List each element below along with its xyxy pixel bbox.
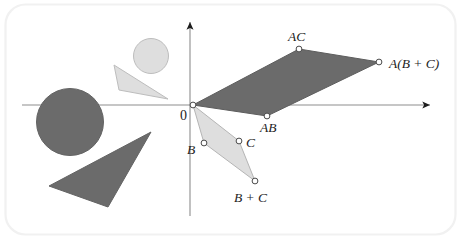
dark-circle [37,89,104,156]
label-b-plus-c: B + C [234,190,268,205]
vertex-marker-origin [190,102,196,108]
vertex-marker-a-b-plus-c [376,59,382,65]
label-ac: AC [287,29,306,44]
label-c: C [246,135,256,150]
origin-label: 0 [180,108,187,123]
label-a-b-plus-c: A(B + C) [388,56,440,71]
label-b: B [187,142,195,157]
vertex-marker-b [201,140,207,146]
geometry-figure: 0 AC A(B + C) AB B C B + C [0,0,462,240]
vertex-marker-c [236,138,242,144]
dark-parallelogram [193,49,379,116]
vertex-marker-ab [264,113,270,119]
light-circle [134,39,169,74]
label-ab: AB [259,120,277,135]
vertex-marker-b-plus-c [252,178,258,184]
vertex-marker-ac [296,46,302,52]
diagram-canvas: 0 AC A(B + C) AB B C B + C [0,0,462,240]
